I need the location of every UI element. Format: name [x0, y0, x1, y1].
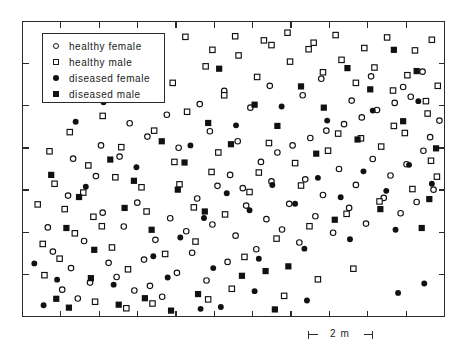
- legend-item-healthy-male: healthy male: [50, 55, 132, 69]
- legend-item-label: diseased male: [69, 89, 141, 100]
- filled-circle-icon: [50, 73, 61, 84]
- scatter-plot-figure: healthy female healthy male diseased fem…: [0, 0, 461, 353]
- scale-bar-label: 2 m: [307, 328, 373, 339]
- legend-item-diseased-female: diseased female: [50, 71, 150, 85]
- legend-item-label: healthy male: [69, 57, 132, 68]
- open-circle-icon: [50, 41, 61, 52]
- legend-item-diseased-male: diseased male: [50, 87, 141, 101]
- scale-bar: 2 m: [307, 327, 373, 343]
- legend-item-label: healthy female: [69, 41, 142, 52]
- filled-square-icon: [50, 89, 61, 100]
- open-square-icon: [50, 57, 61, 68]
- legend: healthy female healthy male diseased fem…: [42, 33, 165, 103]
- legend-item-label: diseased female: [69, 73, 150, 84]
- legend-item-healthy-female: healthy female: [50, 39, 142, 53]
